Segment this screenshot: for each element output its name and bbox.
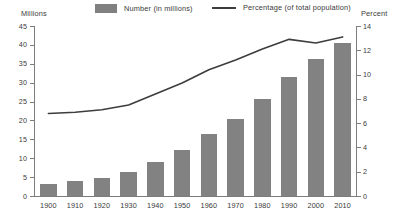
right-axis-title: Percent: [361, 9, 388, 18]
foreign-born-population-chart: Number (in millions) Percentage (of tota…: [0, 0, 400, 219]
right-axis-tick-label: 10: [363, 70, 371, 79]
left-axis-tick-label: 5: [9, 173, 27, 182]
left-axis-tick: [30, 102, 34, 103]
x-axis-tick-label: 1900: [35, 201, 62, 210]
right-axis-tick-label: 8: [363, 94, 367, 103]
right-axis-tick: [357, 172, 361, 173]
right-axis-tick-label: 4: [363, 143, 367, 152]
x-axis-tick-label: 2000: [303, 201, 330, 210]
x-axis-tick-label: 1940: [142, 201, 169, 210]
left-axis-tick-label: 25: [9, 97, 27, 106]
x-axis-tick-label: 1930: [115, 201, 142, 210]
legend-label-number: Number (in millions): [124, 4, 193, 13]
left-axis-tick: [30, 177, 34, 178]
left-axis-tick: [30, 64, 34, 65]
right-axis-tick: [357, 147, 361, 148]
left-axis-tick: [30, 120, 34, 121]
left-axis-tick: [30, 45, 34, 46]
left-axis-tick-label: 0: [9, 192, 27, 201]
legend-line-swatch-icon: [212, 7, 236, 9]
left-axis-tick-label: 40: [9, 40, 27, 49]
left-axis-tick: [30, 83, 34, 84]
legend-item-number: Number (in millions): [95, 4, 193, 13]
right-axis-tick-label: 6: [363, 119, 367, 128]
left-axis-tick-label: 20: [9, 116, 27, 125]
x-axis-tick-label: 1970: [222, 201, 249, 210]
left-axis-tick-label: 45: [9, 22, 27, 31]
legend-item-percentage: Percentage (of total population): [212, 3, 351, 12]
left-axis-tick-label: 35: [9, 59, 27, 68]
right-axis-tick-label: 14: [363, 22, 371, 31]
left-axis-tick-label: 30: [9, 78, 27, 87]
x-axis-tick-label: 1950: [169, 201, 196, 210]
right-axis-tick-label: 12: [363, 46, 371, 55]
x-axis-tick-label: 2010: [329, 201, 356, 210]
right-axis-tick: [357, 50, 361, 51]
x-axis-tick-label: 1910: [62, 201, 89, 210]
bottom-axis-line: [35, 196, 356, 197]
legend-label-percentage: Percentage (of total population): [243, 3, 351, 12]
right-axis-tick: [357, 123, 361, 124]
left-axis-tick: [30, 26, 34, 27]
left-axis-tick-label: 10: [9, 154, 27, 163]
left-axis-tick: [30, 196, 34, 197]
chart-legend: Number (in millions) Percentage (of tota…: [0, 0, 400, 16]
right-axis-tick: [357, 26, 361, 27]
right-axis-tick-label: 2: [363, 167, 367, 176]
x-axis-tick-label: 1920: [89, 201, 116, 210]
percentage-line-series: [35, 26, 356, 196]
left-axis-tick: [30, 139, 34, 140]
x-axis-tick-label: 1990: [276, 201, 303, 210]
right-axis-tick: [357, 196, 361, 197]
right-axis-tick: [357, 99, 361, 100]
left-axis-tick: [30, 158, 34, 159]
right-axis-tick: [357, 75, 361, 76]
x-axis-tick-label: 1980: [249, 201, 276, 210]
legend-bar-swatch-icon: [95, 4, 117, 13]
left-axis-tick-label: 15: [9, 135, 27, 144]
right-axis-tick-label: 0: [363, 192, 367, 201]
x-axis-tick-label: 1960: [196, 201, 223, 210]
left-axis-title: Millions: [21, 9, 47, 18]
